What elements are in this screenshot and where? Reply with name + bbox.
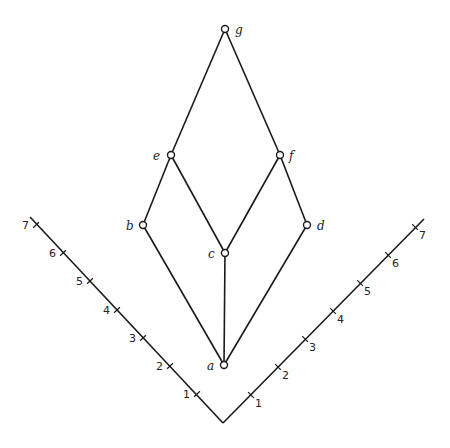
edge-e-b (143, 155, 171, 225)
edge-e-c (171, 155, 225, 253)
node-a (221, 362, 228, 369)
left-tick-label-7: 7 (22, 219, 29, 232)
node-d (304, 222, 311, 229)
right-tick-label-7: 7 (419, 229, 426, 242)
left-tick-label-6: 6 (49, 247, 56, 260)
left-scale-axis (30, 217, 223, 423)
node-label-f: f (288, 149, 296, 163)
left-tick-label-5: 5 (76, 275, 83, 288)
hasse-diagram-figure: 12345671234567 gefbdca (0, 0, 450, 448)
left-tick-label-2: 2 (156, 360, 163, 373)
edge-b-a (143, 225, 224, 365)
node-b (140, 222, 147, 229)
left-tick-label-4: 4 (103, 304, 110, 317)
edge-d-a (224, 225, 307, 365)
right-tick-label-3: 3 (309, 341, 316, 354)
nodes: gefbdca (126, 23, 325, 373)
right-tick-label-6: 6 (392, 257, 399, 270)
edge-f-c (225, 155, 280, 253)
node-c (222, 250, 229, 257)
node-e (168, 152, 175, 159)
right-tick-label-2: 2 (282, 369, 289, 382)
edge-g-e (171, 29, 225, 155)
node-f (277, 152, 284, 159)
node-label-c: c (208, 247, 215, 261)
right-tick-label-1: 1 (255, 397, 262, 410)
right-scale-axis (223, 219, 424, 423)
edge-f-d (280, 155, 307, 225)
node-g (222, 26, 229, 33)
node-label-d: d (317, 219, 325, 233)
node-label-a: a (207, 359, 214, 373)
edges (143, 29, 307, 365)
diagram-canvas: 12345671234567 gefbdca (0, 0, 450, 448)
left-tick-label-3: 3 (129, 332, 136, 345)
left-tick-label-1: 1 (183, 388, 190, 401)
right-tick-label-4: 4 (337, 313, 344, 326)
edge-g-f (225, 29, 280, 155)
node-label-b: b (126, 219, 134, 233)
right-tick-label-5: 5 (364, 285, 371, 298)
node-label-g: g (235, 23, 243, 37)
node-label-e: e (153, 149, 160, 163)
edge-c-a (224, 253, 225, 365)
